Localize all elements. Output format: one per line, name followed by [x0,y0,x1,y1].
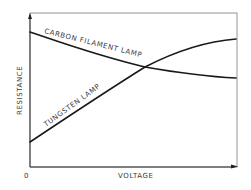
origin-label: 0 [24,172,29,180]
y-axis-arrow-icon [28,13,32,19]
y-axis-label: RESISTANCE [16,66,24,115]
tungsten-label: TUNGSTEN LAMP [42,82,102,129]
x-axis-label: VOLTAGE [118,172,154,180]
carbon-label: CARBON FILAMENT LAMP [44,27,143,59]
resistance-voltage-diagram: CARBON FILAMENT LAMP TUNGSTEN LAMP VOLTA… [0,0,251,190]
